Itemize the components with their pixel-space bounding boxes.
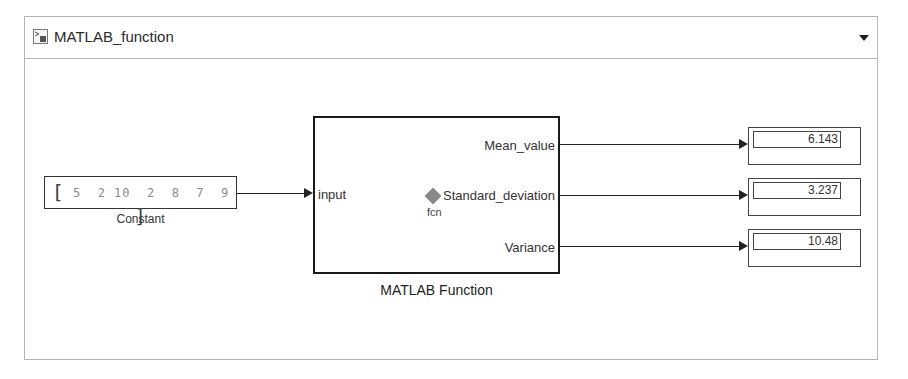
input-port-label: input	[318, 187, 346, 202]
function-name: fcn	[427, 206, 442, 218]
matlab-logo-icon	[425, 188, 442, 205]
arrow-head-icon	[739, 139, 748, 149]
display-value: 6.143	[753, 131, 841, 148]
output-port-std: Standard_deviation	[443, 188, 555, 203]
display-block-mean[interactable]: 6.143	[748, 127, 861, 165]
constant-block-label[interactable]: Constant	[44, 212, 237, 226]
display-value: 3.237	[753, 182, 841, 199]
signal-line-mean[interactable]	[560, 144, 740, 145]
simulink-model-icon	[33, 29, 48, 44]
arrow-head-icon	[739, 190, 748, 200]
constant-block[interactable]: [ 5 2 10 2 8 7 9 ]	[44, 176, 237, 209]
model-breadcrumb-bar: MATLAB_function	[25, 17, 877, 59]
display-value: 10.48	[753, 233, 841, 250]
signal-line-input[interactable]	[237, 193, 305, 194]
model-name[interactable]: MATLAB_function	[54, 28, 174, 45]
matlab-function-block-label[interactable]: MATLAB Function	[313, 282, 560, 298]
matlab-function-block[interactable]: input Mean_value Standard_deviation Vari…	[313, 116, 560, 274]
output-port-mean: Mean_value	[484, 138, 555, 153]
signal-line-std[interactable]	[560, 195, 740, 196]
constant-values: 5 2 10 2 8 7 9	[73, 186, 229, 200]
display-block-std[interactable]: 3.237	[748, 178, 861, 216]
open-bracket: [	[52, 180, 65, 204]
output-port-variance: Variance	[505, 240, 555, 255]
signal-line-variance[interactable]	[560, 246, 740, 247]
arrow-head-icon	[304, 188, 313, 198]
chevron-down-icon[interactable]	[853, 27, 875, 49]
display-block-variance[interactable]: 10.48	[748, 229, 861, 267]
arrow-head-icon	[739, 241, 748, 251]
